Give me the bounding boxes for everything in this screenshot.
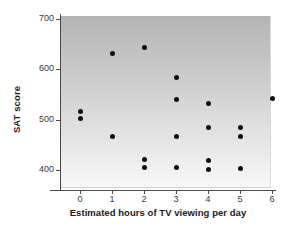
data-point	[110, 134, 115, 139]
data-point	[206, 167, 211, 172]
plot-area	[61, 16, 270, 188]
data-point	[174, 97, 179, 102]
y-axis-line	[60, 14, 61, 190]
x-tick-label: 1	[105, 194, 119, 204]
y-tick-mark	[56, 120, 61, 121]
x-tick-label: 3	[169, 194, 183, 204]
x-tick-label: 5	[233, 194, 247, 204]
y-tick-mark	[56, 170, 61, 171]
data-point	[238, 125, 243, 130]
data-point	[206, 125, 211, 130]
x-tick-label: 2	[137, 194, 151, 204]
y-tick-mark	[56, 69, 61, 70]
data-point	[206, 101, 211, 106]
data-point	[174, 134, 179, 139]
x-tick-label: 4	[201, 194, 215, 204]
scatter-chart-figure: SAT score Estimated hours of TV viewing …	[0, 0, 288, 229]
y-tick-label: 700	[26, 14, 54, 23]
plot-area-right-edge	[270, 16, 271, 188]
y-axis-title: SAT score	[11, 68, 22, 152]
data-point	[238, 134, 243, 139]
plot-area-bottom-edge	[61, 187, 271, 188]
x-axis-title: Estimated hours of TV viewing per day	[38, 207, 278, 218]
data-point	[174, 75, 179, 80]
x-tick-label: 0	[73, 194, 87, 204]
x-axis-line	[50, 190, 276, 191]
data-point	[206, 158, 211, 163]
data-point	[110, 51, 115, 56]
y-tick-label: 400	[26, 165, 54, 174]
y-tick-label: 500	[26, 115, 54, 124]
y-tick-mark	[56, 19, 61, 20]
data-point	[270, 96, 275, 101]
y-tick-label: 600	[26, 64, 54, 73]
data-point	[142, 157, 147, 162]
x-tick-label: 6	[265, 194, 279, 204]
data-point	[142, 45, 147, 50]
